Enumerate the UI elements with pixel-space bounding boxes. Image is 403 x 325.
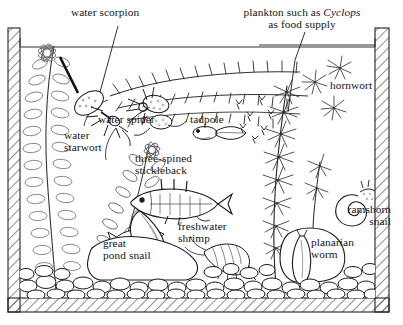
- leader-water-scorpion: [100, 26, 118, 92]
- label-freshwater-shrimp: freshwater shrimp: [178, 220, 227, 244]
- tank-left-wall: [8, 28, 20, 312]
- label-ramshorn-snail: ramshorn snail: [325, 203, 391, 227]
- label-water-starwort-line1: water: [64, 129, 102, 141]
- label-water-spider: water spider: [98, 113, 155, 125]
- label-shrimp-line1: freshwater: [178, 220, 227, 232]
- floating-pondweed: [84, 61, 308, 160]
- water-surface-line: [20, 38, 375, 47]
- label-great-pond-snail: great pond snail: [103, 237, 151, 261]
- label-tadpole-text: tadpole: [190, 113, 224, 125]
- illustration-layer: [0, 0, 403, 325]
- label-plankton: plankton such as Cyclops as food supply: [218, 6, 386, 30]
- label-water-starwort-line2: starwort: [64, 141, 102, 153]
- label-plankton-line1: plankton such as Cyclops: [218, 6, 386, 18]
- label-three-spined-stickleback: three-spined stickleback: [135, 152, 192, 176]
- label-plankton-line2: as food supply: [218, 18, 386, 30]
- aquarium-diagram: water scorpion plankton such as Cyclops …: [0, 0, 403, 325]
- label-ramshorn-line2: snail: [325, 215, 391, 227]
- water-spider-organism: [126, 87, 186, 135]
- label-planarian-line2: worm: [311, 248, 354, 260]
- label-pond-snail-line1: great: [103, 237, 151, 249]
- label-water-spider-text: water spider: [98, 113, 155, 125]
- tadpole-organism: [193, 127, 246, 140]
- label-water-scorpion: water scorpion: [71, 6, 139, 18]
- label-stickleback-line2: stickleback: [135, 164, 192, 176]
- label-planarian-line1: planarian: [311, 236, 354, 248]
- tank-bottom-wall: [8, 298, 389, 312]
- tank-right-wall: [375, 28, 389, 312]
- label-pond-snail-line2: pond snail: [103, 249, 151, 261]
- label-stickleback-line1: three-spined: [135, 152, 192, 164]
- label-hornwort: hornwort: [330, 79, 372, 91]
- label-shrimp-line2: shrimp: [178, 232, 227, 244]
- label-ramshorn-line1: ramshorn: [325, 203, 391, 215]
- label-tadpole: tadpole: [190, 113, 224, 125]
- plankton-cyclops-cluster: [236, 96, 274, 143]
- label-water-starwort: water starwort: [64, 129, 102, 153]
- label-water-scorpion-text: water scorpion: [71, 6, 139, 18]
- label-planarian-worm: planarian worm: [311, 236, 354, 260]
- label-hornwort-text: hornwort: [330, 79, 372, 91]
- label-cyclops-italic: Cyclops: [323, 6, 360, 18]
